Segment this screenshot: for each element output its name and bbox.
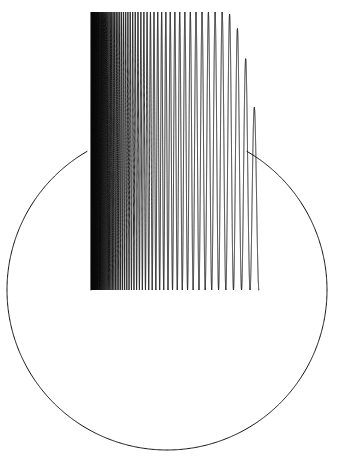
figure-root: Line drawing of a circle with a high-fre…: [0, 0, 344, 464]
plot-canvas: Line drawing of a circle with a high-fre…: [0, 0, 344, 464]
